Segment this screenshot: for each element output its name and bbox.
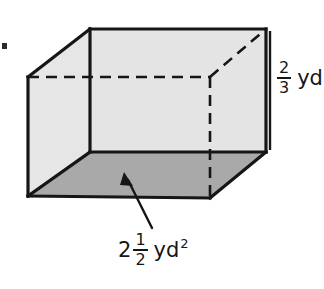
base-area-numerator: 1 — [133, 232, 147, 249]
base-area-whole: 2 — [118, 240, 131, 261]
base-area-denominator: 2 — [133, 251, 147, 268]
front-face — [90, 29, 266, 152]
base-area-fraction: 1 2 — [133, 232, 147, 269]
height-fraction: 2 3 — [277, 60, 291, 97]
height-label: 2 3 yd — [276, 60, 323, 97]
height-unit: yd — [297, 68, 323, 89]
base-area-exponent: 2 — [180, 237, 188, 250]
edge-base-front — [28, 196, 210, 198]
prism-figure: 2 3 yd 2 1 2 yd 2 — [0, 0, 324, 289]
base-area-label: 2 1 2 yd 2 — [118, 232, 189, 269]
bullet-mark — [2, 43, 7, 49]
height-denominator: 3 — [277, 79, 291, 96]
height-numerator: 2 — [277, 60, 291, 77]
base-area-unit: yd — [154, 240, 180, 261]
